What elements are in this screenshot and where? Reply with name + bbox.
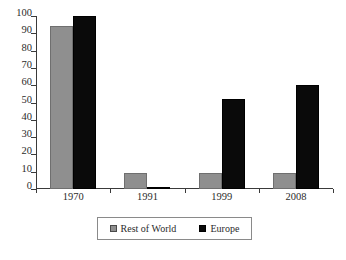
x-axis-label-1970: 1970 — [36, 192, 110, 203]
bar-europe-1970 — [73, 16, 96, 189]
y-tick-label: 20 — [22, 146, 33, 157]
bar-group-1991 — [110, 16, 184, 189]
y-tick-label: 90 — [22, 25, 33, 36]
y-tick-label: 0 — [27, 181, 32, 192]
legend-entry-europe: Europe — [199, 224, 239, 234]
bar-group-1999 — [185, 16, 259, 189]
chart-legend: Rest of WorldEurope — [97, 217, 252, 240]
bars — [110, 16, 184, 189]
bar-rest-of-world-2008 — [273, 173, 296, 189]
bar-rest-of-world-1991 — [124, 173, 147, 189]
bar-rest-of-world-1970 — [50, 26, 73, 189]
bars — [36, 16, 110, 189]
y-tick-label: 60 — [22, 77, 33, 88]
bar-chart-figure: 0102030405060708090100 1970199119992008 … — [0, 0, 346, 260]
legend-entry-rest-of-world: Rest of World — [110, 224, 177, 234]
bar-europe-1991 — [147, 187, 170, 189]
plot-area: 0102030405060708090100 — [36, 16, 333, 189]
y-tick-label: 50 — [22, 95, 33, 106]
y-tick-label: 40 — [22, 112, 33, 123]
bar-rest-of-world-1999 — [199, 173, 222, 189]
legend-label: Europe — [210, 224, 239, 234]
x-axis-labels: 1970199119992008 — [36, 192, 333, 203]
bar-groups — [36, 16, 333, 189]
bar-group-2008 — [259, 16, 333, 189]
bars — [259, 16, 333, 189]
bars — [185, 16, 259, 189]
legend-label: Rest of World — [121, 224, 177, 234]
x-axis-label-1999: 1999 — [185, 192, 259, 203]
bar-europe-2008 — [296, 85, 319, 189]
bar-europe-1999 — [222, 99, 245, 189]
x-tick-mark — [333, 189, 334, 193]
y-tick-label: 30 — [22, 129, 33, 140]
x-axis-label-2008: 2008 — [259, 192, 333, 203]
gray-square-swatch-icon — [110, 225, 117, 232]
y-tick-label: 70 — [22, 60, 33, 71]
y-tick-label: 100 — [16, 8, 32, 19]
y-tick-label: 80 — [22, 43, 33, 54]
black-square-swatch-icon — [199, 225, 206, 232]
x-axis-label-1991: 1991 — [110, 192, 184, 203]
y-tick-label: 10 — [22, 164, 33, 175]
bar-group-1970 — [36, 16, 110, 189]
